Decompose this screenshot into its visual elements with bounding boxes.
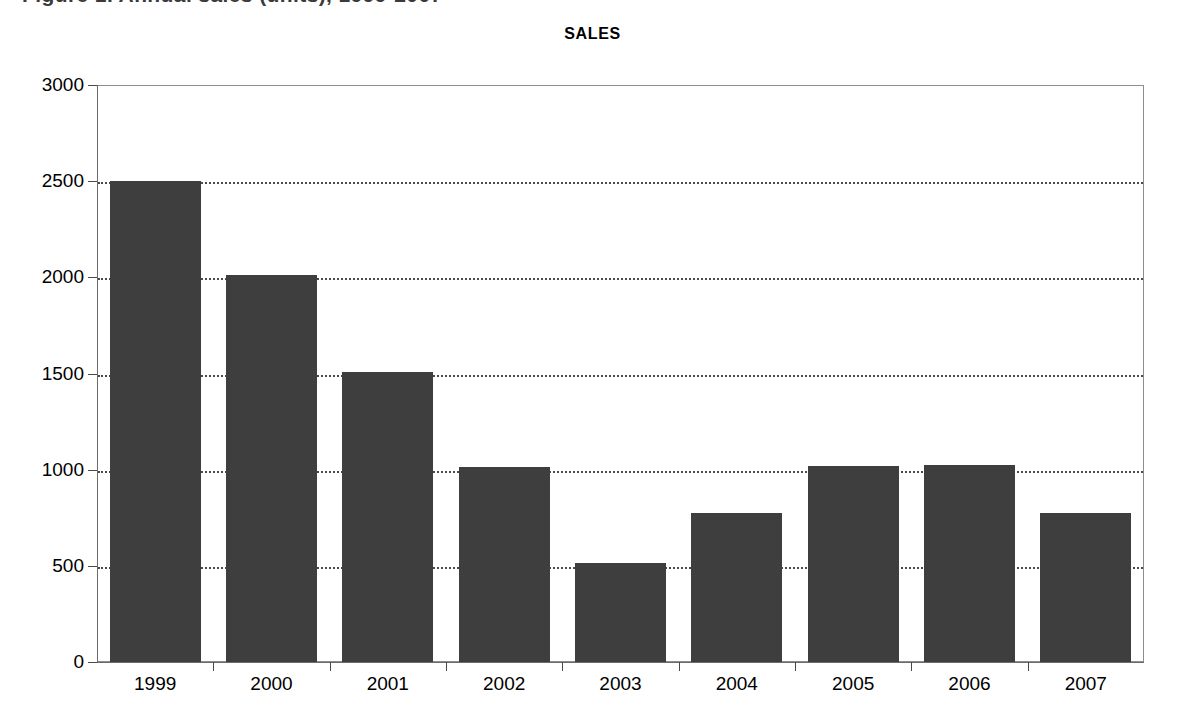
x-axis-tick-label: 2006 [911,674,1027,693]
y-axis-tick-label: 0 [73,652,84,671]
chart-page: Figure 1. Annual sales (units), 1999-200… [0,0,1185,728]
x-axis-tick-label: 2001 [330,674,446,693]
x-axis-tick [1028,662,1029,671]
y-axis-tick [88,662,97,663]
y-axis-tick [88,85,97,86]
x-axis-tick [679,662,680,671]
x-axis-tick [795,662,796,671]
x-axis-tick-label: 2003 [562,674,678,693]
y-axis-tick [88,181,97,182]
y-axis-tick-label: 1000 [42,460,84,479]
y-axis-tick-labels: 050010001500200025003000 [0,0,84,728]
y-axis-tick [88,374,97,375]
bar [342,372,433,662]
bar [1040,513,1131,662]
x-axis-tick-label: 2007 [1028,674,1144,693]
bar [575,563,666,662]
y-axis-tick-label: 500 [52,556,84,575]
caption-text: Figure 1. Annual sales (units), 1999-200… [22,0,443,7]
bar [226,275,317,662]
y-axis-tick [88,566,97,567]
chart-title: SALES [0,25,1185,43]
x-axis-tick-label: 2002 [446,674,562,693]
x-axis-tick [213,662,214,671]
bar-series [97,85,1144,662]
bar [924,465,1015,662]
x-axis-tick-label: 2004 [679,674,795,693]
bar [110,181,201,662]
y-axis-tick-label: 3000 [42,75,84,94]
y-axis-tick-label: 2000 [42,267,84,286]
y-axis-tick [88,470,97,471]
cropped-caption-strip: Figure 1. Annual sales (units), 1999-200… [0,0,1185,13]
y-axis-tick-label: 2500 [42,171,84,190]
x-axis-line [97,662,1144,663]
bar [808,466,899,662]
x-axis-tick-label: 2000 [213,674,329,693]
x-axis-tick [330,662,331,671]
x-axis-tick-label: 1999 [97,674,213,693]
x-axis-tick [562,662,563,671]
bar [691,513,782,662]
y-axis-line [97,85,98,663]
x-axis-tick-label: 2005 [795,674,911,693]
y-axis-tick [88,277,97,278]
x-axis-tick [446,662,447,671]
bar [459,467,550,662]
x-axis-tick [911,662,912,671]
y-axis-tick-label: 1500 [42,364,84,383]
